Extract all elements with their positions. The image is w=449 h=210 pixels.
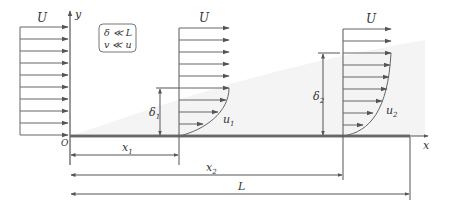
boundary-layer-diagram: U y O δ ≪ L v ≪ u x U u1 δ1	[0, 0, 449, 210]
y-axis-label: y	[74, 8, 82, 21]
svg-text:x2: x2	[206, 161, 217, 176]
x-axis-label: x	[423, 139, 430, 152]
boundary-layer-region	[70, 40, 425, 136]
svg-text:v ≪ u: v ≪ u	[104, 39, 132, 50]
svg-text:L: L	[237, 180, 245, 193]
origin-label: O	[61, 138, 69, 148]
svg-text:x1: x1	[122, 141, 133, 156]
freestream-velocity-label: U	[37, 11, 48, 25]
dimension-x2: x2	[71, 161, 342, 176]
dimension-x1: x1	[71, 141, 178, 156]
inlet-velocity-profile	[20, 27, 68, 135]
freestream-velocity-label-1: U	[199, 11, 210, 25]
dimension-L: L	[71, 180, 409, 194]
svg-text:δ ≪ L: δ ≪ L	[104, 27, 132, 38]
freestream-velocity-label-2: U	[366, 12, 377, 26]
assumptions-box: δ ≪ L v ≪ u	[99, 24, 136, 52]
